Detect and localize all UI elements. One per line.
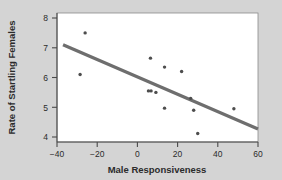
scatter-plot-figure: 4 5 6 7 8 Rate of Startling Females −40 … xyxy=(0,0,282,180)
data-point xyxy=(180,70,183,73)
x-tick-label-5: 60 xyxy=(253,149,263,159)
data-point xyxy=(232,107,235,110)
x-tick-label-2: 0 xyxy=(135,149,140,159)
data-point xyxy=(196,132,199,135)
data-point xyxy=(189,97,192,100)
x-tick-label-4: 40 xyxy=(213,149,223,159)
y-tick-label-2: 6 xyxy=(43,73,48,83)
y-tick-label-0: 4 xyxy=(43,132,48,142)
x-axis-title: Male Responsiveness xyxy=(108,164,207,175)
data-point xyxy=(163,106,166,109)
data-point xyxy=(154,91,157,94)
x-tick-label-1: −20 xyxy=(90,149,105,159)
y-tick-label-1: 5 xyxy=(43,103,48,113)
x-tick-label-3: 20 xyxy=(173,149,183,159)
y-tick-label-4: 8 xyxy=(43,13,48,23)
x-tick-label-0: −40 xyxy=(50,149,65,159)
data-point xyxy=(192,109,195,112)
y-axis-title: Rate of Startling Females xyxy=(6,20,17,134)
plot-area-background xyxy=(57,13,258,142)
data-point xyxy=(149,56,152,59)
data-point xyxy=(78,73,81,76)
data-point xyxy=(163,65,166,68)
data-point xyxy=(149,89,152,92)
data-point xyxy=(83,31,86,34)
y-tick-label-3: 7 xyxy=(43,43,48,53)
